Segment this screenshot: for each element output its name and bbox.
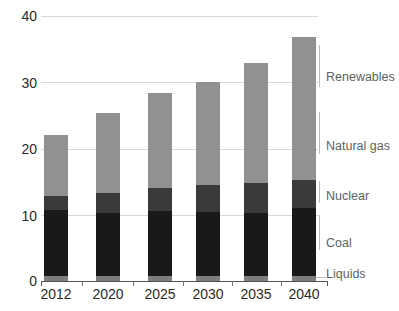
segment-coal-2020 xyxy=(96,213,120,276)
series-label-coal: Coal xyxy=(326,237,352,250)
plot-area xyxy=(41,16,318,281)
gridline-10 xyxy=(41,215,318,216)
segment-nuclear-2040 xyxy=(292,180,316,208)
segment-renewables-2030 xyxy=(196,82,220,133)
segment-nuclear-2030 xyxy=(196,185,220,212)
x-tick-1 xyxy=(82,281,83,286)
segment-nuclear-2020 xyxy=(96,193,120,213)
gridline-20 xyxy=(41,149,318,150)
x-tick-label-2040: 2040 xyxy=(280,287,328,301)
segment-renewables-2040 xyxy=(292,37,316,109)
segment-renewables-2020 xyxy=(96,113,120,152)
segment-natural-gas-2040 xyxy=(292,109,316,180)
series-label-nuclear: Nuclear xyxy=(326,190,369,203)
series-label-natural-gas: Natural gas xyxy=(326,140,390,153)
y-axis-labels: 40 30 20 10 0 xyxy=(0,0,37,311)
segment-nuclear-2035 xyxy=(244,183,268,213)
gridline-30 xyxy=(41,82,318,83)
x-tick-label-2020: 2020 xyxy=(84,287,132,301)
segment-renewables-2035 xyxy=(244,63,268,123)
segment-coal-2025 xyxy=(148,211,172,276)
x-axis-line xyxy=(41,281,328,282)
series-label-liquids: Liquids xyxy=(326,268,366,281)
segment-natural-gas-2012 xyxy=(44,169,68,196)
y-tick-label-40: 40 xyxy=(3,9,37,23)
x-tick-4 xyxy=(232,281,233,286)
segment-nuclear-2012 xyxy=(44,196,68,210)
leader-renewables xyxy=(319,45,320,87)
segment-coal-2035 xyxy=(244,213,268,276)
segment-coal-2040 xyxy=(292,208,316,276)
segment-natural-gas-2035 xyxy=(244,123,268,183)
y-tick-label-10: 10 xyxy=(3,209,37,223)
gridline-40 xyxy=(41,16,318,17)
y-tick-label-30: 30 xyxy=(3,76,37,90)
stacked-bar-chart: 40 30 20 10 0 xyxy=(0,0,399,311)
segment-coal-2030 xyxy=(196,212,220,276)
leader-natural-gas xyxy=(319,112,320,154)
leader-nuclear xyxy=(319,181,320,203)
x-tick-5 xyxy=(281,281,282,286)
segment-natural-gas-2025 xyxy=(148,143,172,188)
y-tick-label-20: 20 xyxy=(3,142,37,156)
x-tick-3 xyxy=(183,281,184,286)
y-tick-label-0: 0 xyxy=(3,274,37,288)
x-tick-2 xyxy=(133,281,134,286)
segment-nuclear-2025 xyxy=(148,188,172,211)
x-tick-label-2025: 2025 xyxy=(136,287,184,301)
x-tick-label-2035: 2035 xyxy=(232,287,280,301)
segment-coal-2012 xyxy=(44,210,68,276)
segment-natural-gas-2030 xyxy=(196,133,220,185)
x-tick-label-2030: 2030 xyxy=(184,287,232,301)
series-label-renewables: Renewables xyxy=(326,71,395,84)
x-tick-label-2012: 2012 xyxy=(32,287,80,301)
x-axis-cap-right xyxy=(327,281,328,286)
segment-natural-gas-2020 xyxy=(96,152,120,193)
leader-liquids xyxy=(316,277,326,278)
leader-coal xyxy=(319,215,320,250)
segment-renewables-2025 xyxy=(148,93,172,143)
segment-renewables-2012 xyxy=(44,135,68,169)
